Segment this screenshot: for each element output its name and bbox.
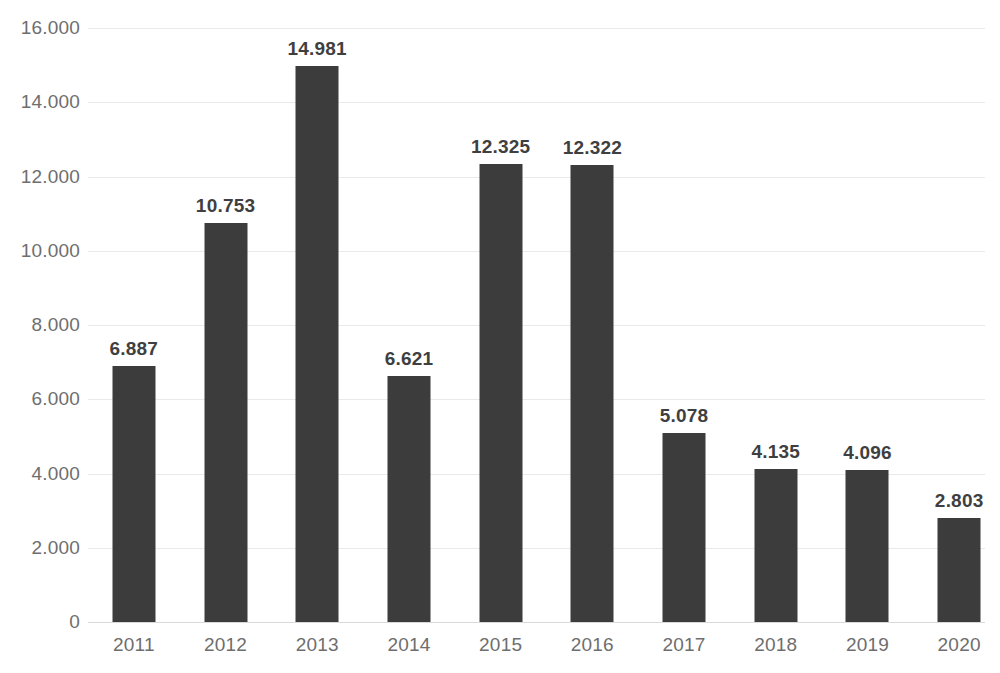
x-tick-label: 2014 [363,634,455,656]
bar-value-label: 2.803 [935,490,984,512]
bar-2013[interactable] [296,66,339,622]
x-axis: 2011 2012 2013 2014 2015 2016 2017 2018 … [88,634,985,664]
bar-value-label: 4.096 [843,442,892,464]
bar-slot: 12.325 [455,28,547,622]
bar-value-label: 12.322 [563,137,622,159]
bar-2014[interactable] [387,376,430,622]
y-tick-label: 8.000 [2,314,80,336]
bar-value-label: 6.887 [110,338,159,360]
y-tick-label: 16.000 [2,17,80,39]
bar-value-label: 4.135 [751,441,800,463]
x-tick-label: 2016 [547,634,639,656]
bar-2017[interactable] [663,433,706,622]
bar-slot: 6.621 [363,28,455,622]
bar-2012[interactable] [204,223,247,622]
bar-value-label: 6.621 [385,348,434,370]
bar-2020[interactable] [938,518,981,622]
x-tick-label: 2012 [180,634,272,656]
x-tick-label: 2013 [271,634,363,656]
bar-slot: 5.078 [638,28,730,622]
bar-slot: 14.981 [271,28,363,622]
bar-value-label: 10.753 [196,195,255,217]
bar-value-label: 12.325 [471,136,530,158]
bar-slot: 4.135 [730,28,822,622]
bar-value-label: 14.981 [288,38,347,60]
bar-chart: 16.000 14.000 12.000 10.000 8.000 6.000 … [0,0,1000,673]
y-axis: 16.000 14.000 12.000 10.000 8.000 6.000 … [0,0,80,673]
x-tick-label: 2015 [455,634,547,656]
bars-layer: 6.887 10.753 14.981 6.621 12.325 12.322 … [88,28,985,622]
bar-slot: 10.753 [180,28,272,622]
bar-value-label: 5.078 [660,405,709,427]
bar-slot: 6.887 [88,28,180,622]
bar-2019[interactable] [846,470,889,622]
y-tick-label: 14.000 [2,91,80,113]
y-tick-label: 6.000 [2,388,80,410]
x-axis-line [88,622,985,623]
y-tick-label: 12.000 [2,166,80,188]
x-tick-label: 2018 [730,634,822,656]
bar-slot: 4.096 [822,28,914,622]
bar-2016[interactable] [571,165,614,622]
bar-2018[interactable] [754,469,797,623]
y-tick-label: 4.000 [2,463,80,485]
x-tick-label: 2011 [88,634,180,656]
bar-2011[interactable] [112,366,155,622]
bar-2015[interactable] [479,164,522,622]
y-tick-label: 10.000 [2,240,80,262]
x-tick-label: 2017 [638,634,730,656]
bar-slot: 2.803 [913,28,1000,622]
x-tick-label: 2020 [913,634,1000,656]
x-tick-label: 2019 [822,634,914,656]
y-tick-label: 2.000 [2,537,80,559]
bar-slot: 12.322 [547,28,639,622]
y-tick-label: 0 [2,611,80,633]
